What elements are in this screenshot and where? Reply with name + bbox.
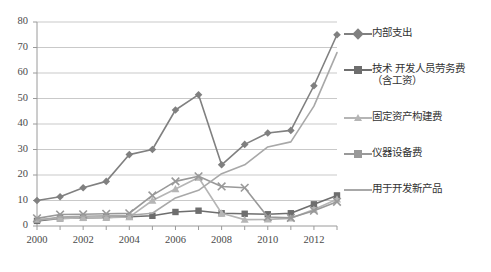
legend-item-label: 固定资产构建费: [372, 110, 442, 122]
legend-item-3[interactable]: 仪器设备费: [344, 146, 422, 160]
legend-item-2[interactable]: 固定资产构建费: [344, 110, 442, 124]
y-axis-tick-label: 60: [2, 66, 28, 77]
y-axis-tick-label: 0: [2, 219, 28, 230]
y-axis-tick-label: 80: [2, 15, 28, 26]
y-axis-tick-label: 10: [2, 194, 28, 205]
data-point-marker: [56, 193, 64, 201]
series-3: [33, 172, 341, 222]
axis-lines: [33, 22, 337, 230]
chart-container: 01020304050607080 2000200220042006200820…: [0, 0, 491, 272]
y-axis-tick-label: 20: [2, 168, 28, 179]
legend-item-0[interactable]: 内部支出: [344, 26, 412, 40]
legend-item-4[interactable]: 用于开发新产品: [344, 182, 442, 196]
data-point-marker: [172, 209, 178, 215]
x-axis-tick-label: 2012: [292, 234, 336, 245]
x-axis-tick-label: 2000: [15, 234, 59, 245]
x-axis-tick-label: 2004: [107, 234, 151, 245]
x-axis-tick-label: 2002: [61, 234, 105, 245]
none-marker-icon: [344, 184, 372, 196]
data-point-marker: [79, 184, 87, 192]
legend-item-1[interactable]: 技术 开发人员劳务费（含工资）: [344, 62, 465, 86]
legend-item-label: 技术 开发人员劳务费（含工资）: [372, 62, 465, 86]
line-chart-plot: [0, 0, 491, 272]
x-axis-tick-label: 2008: [200, 234, 244, 245]
y-axis-tick-label: 50: [2, 92, 28, 103]
data-point-marker: [310, 82, 318, 90]
data-point-marker: [195, 208, 201, 214]
gridlines: [37, 22, 337, 226]
data-point-marker: [33, 197, 41, 205]
y-axis-tick-label: 30: [2, 143, 28, 154]
series-4: [37, 53, 337, 221]
square-marker-icon: [344, 64, 372, 76]
data-point-marker: [171, 185, 179, 192]
legend-item-label-line2: （含工资）: [372, 74, 465, 86]
x-axis-tick-label: 2006: [153, 234, 197, 245]
series-1: [34, 192, 340, 224]
x-marker-icon: [344, 148, 372, 160]
legend-item-label: 用于开发新产品: [372, 182, 442, 194]
x-axis-tick-label: 2010: [246, 234, 290, 245]
data-point-marker: [264, 129, 272, 137]
legend-item-label: 内部支出: [372, 26, 412, 38]
diamond-marker-icon: [344, 28, 372, 40]
series-2: [33, 174, 341, 223]
data-point-marker: [287, 127, 295, 135]
legend-item-label: 仪器设备费: [372, 146, 422, 158]
y-axis-tick-label: 70: [2, 41, 28, 52]
y-axis-tick-label: 40: [2, 117, 28, 128]
data-point-marker: [333, 31, 341, 39]
data-point-marker: [149, 146, 157, 154]
triangle-marker-icon: [344, 112, 372, 124]
